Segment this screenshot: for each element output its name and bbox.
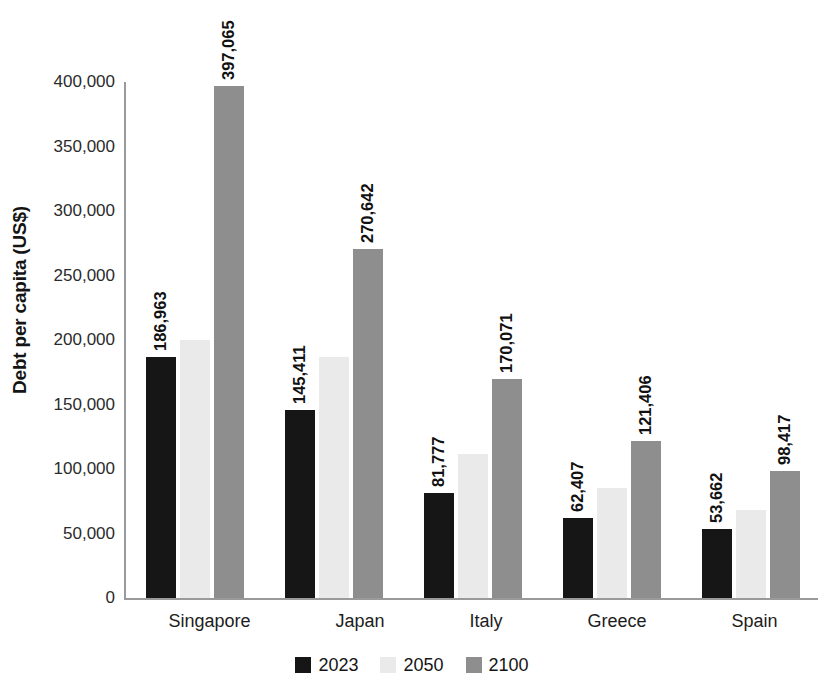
bar-wrapper: 98,417 bbox=[770, 70, 800, 598]
bar-wrapper: 53,662 bbox=[702, 70, 732, 598]
y-axis-tick-label: 250,000 bbox=[54, 266, 115, 286]
x-axis-category-label: Singapore bbox=[168, 611, 250, 632]
bar[interactable] bbox=[214, 86, 244, 598]
bar[interactable] bbox=[458, 454, 488, 598]
y-axis-title: Debt per capita (US$) bbox=[0, 0, 40, 600]
bar-groups: 186,963397,065145,411270,64281,777170,07… bbox=[126, 70, 820, 598]
bar[interactable] bbox=[736, 510, 766, 598]
legend-swatch-icon bbox=[380, 657, 396, 673]
legend-label: 2050 bbox=[403, 655, 443, 676]
bar-wrapper: 270,642 bbox=[353, 70, 383, 598]
bar[interactable] bbox=[146, 357, 176, 598]
bar[interactable] bbox=[424, 493, 454, 598]
bar-value-label: 53,662 bbox=[707, 472, 726, 522]
bar-value-label: 270,642 bbox=[358, 183, 377, 243]
y-axis-tick-label: 150,000 bbox=[54, 395, 115, 415]
bar-group: 81,777170,071 bbox=[424, 70, 522, 598]
legend-item[interactable]: 2023 bbox=[295, 655, 358, 676]
y-axis-tick-label: 200,000 bbox=[54, 330, 115, 350]
bar[interactable] bbox=[353, 249, 383, 598]
bar-value-label: 62,407 bbox=[568, 461, 587, 511]
legend-label: 2023 bbox=[318, 655, 358, 676]
bar[interactable] bbox=[597, 488, 627, 598]
bar-wrapper: 121,406 bbox=[631, 70, 661, 598]
bar-group: 145,411270,642 bbox=[285, 70, 383, 598]
bar-value-label: 145,411 bbox=[290, 346, 309, 405]
x-axis-category-label: Greece bbox=[587, 611, 646, 632]
bar[interactable] bbox=[702, 529, 732, 598]
bar-wrapper bbox=[736, 70, 766, 598]
y-axis-tick-label: 350,000 bbox=[54, 137, 115, 157]
bar[interactable] bbox=[631, 441, 661, 598]
x-axis-category-label: Italy bbox=[470, 611, 503, 632]
bar[interactable] bbox=[285, 410, 315, 598]
plot-area: 050,000100,000150,000200,000250,000300,0… bbox=[124, 70, 820, 598]
bar-wrapper: 186,963 bbox=[146, 70, 176, 598]
bar-wrapper bbox=[458, 70, 488, 598]
y-axis-tick-label: 400,000 bbox=[54, 72, 115, 92]
x-axis-category-labels: SingaporeJapanItalyGreeceSpain bbox=[126, 605, 820, 637]
bar-value-label: 397,065 bbox=[219, 20, 238, 80]
bar-chart: Debt per capita (US$) 050,000100,000150,… bbox=[0, 0, 824, 682]
bar-wrapper bbox=[319, 70, 349, 598]
bar[interactable] bbox=[563, 518, 593, 599]
bar-group: 62,407121,406 bbox=[563, 70, 661, 598]
bar[interactable] bbox=[319, 357, 349, 598]
bar-wrapper: 145,411 bbox=[285, 70, 315, 598]
bar-wrapper bbox=[180, 70, 210, 598]
y-axis-tick-label: 300,000 bbox=[54, 201, 115, 221]
x-axis-category-label: Japan bbox=[336, 611, 385, 632]
bar-group: 53,66298,417 bbox=[702, 70, 800, 598]
bar-value-label: 98,417 bbox=[775, 415, 794, 465]
legend: 202320502100 bbox=[0, 652, 824, 678]
bar-value-label: 121,406 bbox=[636, 376, 655, 436]
y-axis-title-text: Debt per capita (US$) bbox=[9, 206, 31, 394]
legend-label: 2100 bbox=[489, 655, 529, 676]
legend-item[interactable]: 2050 bbox=[380, 655, 443, 676]
bar-value-label: 170,071 bbox=[497, 313, 516, 373]
bar-wrapper: 62,407 bbox=[563, 70, 593, 598]
bar-group: 186,963397,065 bbox=[146, 70, 244, 598]
y-axis-tick-label: 50,000 bbox=[63, 524, 115, 544]
legend-swatch-icon bbox=[466, 657, 482, 673]
bar-wrapper: 170,071 bbox=[492, 70, 522, 598]
bar-value-label: 186,963 bbox=[151, 291, 170, 351]
bar-value-label: 81,777 bbox=[429, 436, 448, 486]
y-axis-tick-label: 0 bbox=[106, 588, 115, 608]
bar-wrapper: 397,065 bbox=[214, 70, 244, 598]
bar[interactable] bbox=[180, 340, 210, 598]
bar-wrapper: 81,777 bbox=[424, 70, 454, 598]
y-axis-tick-label: 100,000 bbox=[54, 459, 115, 479]
x-axis-line bbox=[124, 598, 818, 600]
x-axis-category-label: Spain bbox=[731, 611, 777, 632]
legend-item[interactable]: 2100 bbox=[466, 655, 529, 676]
bar[interactable] bbox=[770, 471, 800, 598]
bar[interactable] bbox=[492, 379, 522, 598]
bar-wrapper bbox=[597, 70, 627, 598]
legend-swatch-icon bbox=[295, 657, 311, 673]
